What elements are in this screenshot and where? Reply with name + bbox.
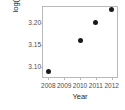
x-tick-mark [112,78,113,80]
y-tick-label: 3.10 [25,63,41,70]
y-tick-label: 3.20 [25,19,41,26]
x-tick-mark [80,78,81,80]
data-point [46,69,51,74]
y-axis-title: log(Debt) [10,0,22,26]
x-tick-label: 2012 [100,82,124,90]
x-axis-ticks: 20082009201020112012 [0,78,125,92]
scatter-plot-figure: log(Debt) 3.103.153.20 20082009201020112… [0,0,125,110]
x-axis-title: Year [42,92,118,101]
y-axis-ticks: 3.103.153.20 [24,0,41,110]
x-tick-mark [48,78,49,80]
x-tick-mark [64,78,65,80]
x-tick-mark [96,78,97,80]
data-point [78,38,83,43]
y-tick-label: 3.15 [25,41,41,48]
